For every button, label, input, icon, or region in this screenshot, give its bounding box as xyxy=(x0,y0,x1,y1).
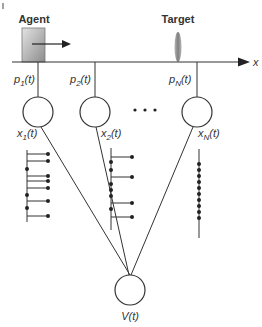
spike-raster-2 xyxy=(109,148,134,230)
agent-arrowhead-icon xyxy=(62,40,71,48)
p2-label: p2(t) xyxy=(69,73,91,88)
neuron-2-circle xyxy=(80,97,110,127)
pn-label: pN(t) xyxy=(168,73,192,88)
x-axis: x xyxy=(12,56,259,68)
target-ellipse-icon xyxy=(175,32,182,62)
readout-circle xyxy=(115,275,145,305)
target: Target xyxy=(162,13,195,62)
ellipsis-icon xyxy=(133,108,156,111)
agent-label: Agent xyxy=(18,13,50,25)
target-label: Target xyxy=(162,13,195,25)
connection-n-to-readout xyxy=(131,127,193,275)
neuron-n-circle xyxy=(182,97,212,127)
readout-label: V(t) xyxy=(121,310,139,322)
connection-2-to-readout xyxy=(96,127,129,275)
spike-raster-n xyxy=(197,149,201,238)
population-coding-diagram: Agent Target x p1(t) p2(t) pN(t) x1(t) x… xyxy=(0,0,262,327)
x2-label: x2(t) xyxy=(100,127,122,142)
xn-label: xN(t) xyxy=(197,127,220,142)
connection-1-to-readout xyxy=(41,127,130,275)
neuron-1-circle xyxy=(23,97,53,127)
spike-raster-1 xyxy=(25,150,50,222)
agent: Agent xyxy=(18,13,71,62)
axis-arrowhead-icon xyxy=(238,58,250,67)
p1-label: p1(t) xyxy=(13,73,35,88)
agent-box-icon xyxy=(22,28,45,62)
axis-label: x xyxy=(252,56,259,68)
x1-label: x1(t) xyxy=(16,127,38,142)
